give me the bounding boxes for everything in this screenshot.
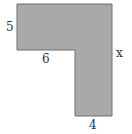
label-left-side: 5: [6, 20, 14, 34]
label-bottom: 4: [89, 118, 97, 132]
label-right-side: x: [116, 46, 123, 60]
l-shape-diagram: 5 6 x 4: [0, 0, 132, 134]
l-shaped-polygon: [17, 4, 112, 116]
label-inner-bottom: 6: [42, 52, 50, 66]
